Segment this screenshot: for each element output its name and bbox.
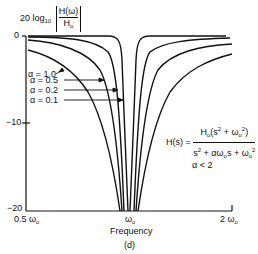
x-mid-text: ω: [125, 214, 132, 224]
x-tick-label-mid: ωo: [125, 214, 135, 225]
formula-fraction: Ho(s2 + ωo2) s2 + αωos + ωo2: [193, 124, 255, 162]
legend-alpha-0-1: α = 0.1: [30, 95, 58, 105]
x-axis-label: Frequency: [110, 226, 153, 236]
ylabel-numerator: H(ω): [59, 6, 79, 18]
legend-alpha-0-5: α = 0.5: [30, 75, 58, 85]
ylabel-den-sub: o: [70, 23, 73, 29]
arrowhead-alpha-0-1: [118, 98, 123, 102]
ylabel-denominator: Ho: [59, 18, 79, 32]
x-left-text: 0.5 ω: [14, 214, 36, 224]
y-tick-label-20: −20: [7, 203, 22, 213]
ylabel-prefix: 20 log: [20, 13, 45, 23]
y-axis-label: 20 log10 H(ω) Ho: [20, 6, 81, 32]
x-tick-label-left: 0.5 ωo: [14, 214, 39, 225]
x-left-sub: o: [36, 219, 39, 225]
y-tick-label-10: −10: [6, 117, 21, 127]
x-tick-label-right: 2 ωo: [220, 214, 238, 225]
formula-lhs: H(s) =: [166, 137, 191, 147]
formula-numerator: Ho(s2 + ωo2): [193, 124, 255, 143]
x-right-sub: o: [235, 219, 238, 225]
arrowhead-alpha-1-0: [59, 68, 64, 72]
x-mid-sub: o: [132, 219, 135, 225]
ylabel-sub: 10: [45, 18, 52, 24]
label-arrows: [56, 68, 123, 102]
figure-caption: (d): [124, 240, 135, 250]
ylabel-fraction: H(ω) Ho: [56, 6, 82, 32]
y-tick-label-0: 0: [14, 30, 19, 40]
alpha-condition: α < 2: [192, 160, 212, 170]
legend-alpha-0-2: α = 0.2: [30, 85, 58, 95]
x-right-text: 2 ω: [220, 214, 235, 224]
transfer-function-formula: H(s) = Ho(s2 + ωo2) s2 + αωos + ωo2: [166, 124, 255, 162]
